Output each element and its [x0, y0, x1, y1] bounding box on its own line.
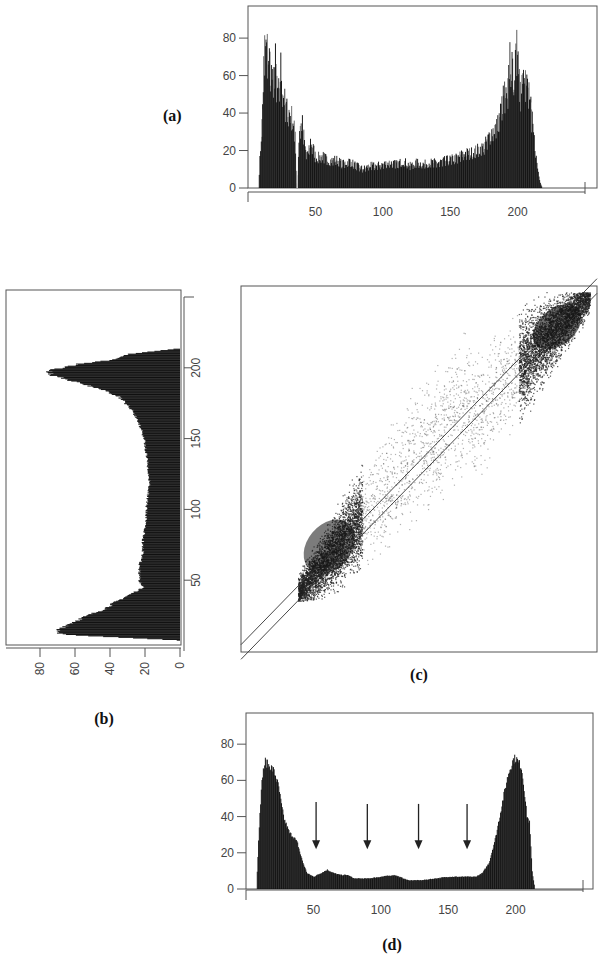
panel-c-scatter: [241, 279, 597, 660]
histogram-bars: [257, 755, 535, 889]
x-tick-label: 40: [103, 662, 117, 676]
y-tick-label: 0: [229, 181, 236, 195]
y-tick-label: 50: [189, 573, 203, 587]
scatter-points: [293, 292, 591, 602]
x-tick-label: 50: [307, 903, 321, 917]
y-axis: 020406080: [223, 31, 248, 195]
count-axis: 806040200: [6, 648, 187, 675]
x-tick-label: 60: [68, 662, 82, 676]
x-tick-label: 150: [438, 903, 458, 917]
panel-d-histogram: 02040608050100150200: [221, 713, 593, 917]
panel-c-label: (c): [410, 666, 428, 684]
figure: 02040608050100150200(a)02040608050100150…: [0, 0, 605, 961]
arrow-annotations: [312, 802, 471, 849]
y-tick-label: 20: [221, 846, 235, 860]
panel-a-label: (a): [163, 107, 182, 125]
panel-b-histogram: 50100150200806040200: [6, 290, 203, 675]
y-tick-label: 80: [221, 737, 235, 751]
y-tick-label: 150: [189, 428, 203, 448]
x-tick-label: 50: [309, 205, 323, 219]
panel-d-label: (d): [382, 936, 402, 954]
x-tick-label: 80: [33, 662, 47, 676]
histogram-bars: [259, 15, 542, 188]
y-tick-label: 40: [223, 106, 237, 120]
panel-b-label: (b): [94, 710, 114, 728]
histogram-bars: [46, 349, 180, 641]
y-tick-label: 20: [223, 144, 237, 158]
x-tick-label: 150: [440, 205, 460, 219]
y-tick-label: 200: [189, 357, 203, 377]
y-axis: 020406080: [221, 737, 246, 896]
panel-a-histogram: 02040608050100150200: [223, 6, 597, 219]
intensity-axis: 50100150200: [184, 297, 203, 651]
y-tick-label: 0: [227, 882, 234, 896]
y-tick-label: 60: [221, 773, 235, 787]
y-tick-label: 60: [223, 69, 237, 83]
y-tick-label: 40: [221, 810, 235, 824]
x-tick-label: 200: [508, 205, 528, 219]
y-tick-label: 80: [223, 31, 237, 45]
x-tick-label: 0: [173, 662, 187, 669]
y-tick-label: 100: [189, 499, 203, 519]
x-tick-label: 20: [138, 662, 152, 676]
x-tick-label: 100: [373, 205, 393, 219]
x-tick-label: 100: [371, 903, 391, 917]
x-tick-label: 200: [506, 903, 526, 917]
